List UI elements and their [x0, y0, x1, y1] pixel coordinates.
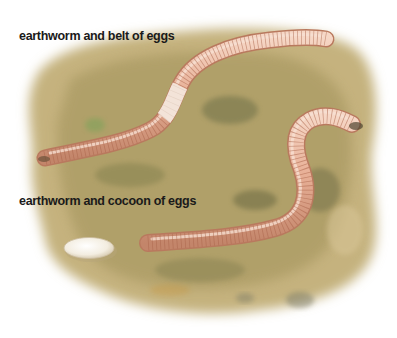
illustration-canvas: earthworm and belt of eggs earthworm and… [0, 0, 397, 338]
caption-cocoon-of-eggs: earthworm and cocoon of eggs [19, 195, 196, 208]
soil-patch [29, 29, 376, 314]
earthworm-illustration [0, 0, 397, 338]
caption-belt-of-eggs: earthworm and belt of eggs [19, 30, 174, 43]
